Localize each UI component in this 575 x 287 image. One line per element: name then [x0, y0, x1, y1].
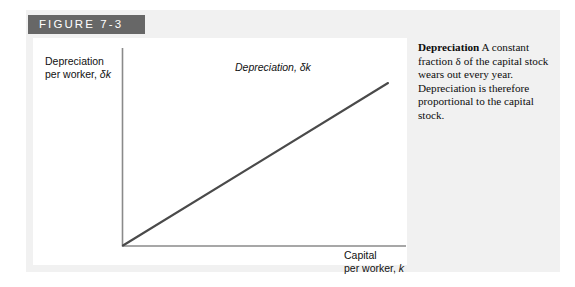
caption-term: Depreciation: [418, 41, 479, 53]
y-axis-label-line1: Depreciation: [45, 55, 104, 67]
x-axis-label-line1: Capital: [344, 249, 377, 261]
figure-panel: FIGURE 7-3 Depreciation per worker, δk D…: [26, 10, 560, 272]
y-axis-label: Depreciation per worker, δk: [45, 55, 111, 81]
figure-screenshot: FIGURE 7-3 Depreciation per worker, δk D…: [0, 0, 575, 287]
chart-plot-area: Depreciation per worker, δk Depreciation…: [33, 38, 407, 265]
figure-banner-label: FIGURE 7-3: [39, 18, 123, 30]
x-axis-label-variable: k: [399, 262, 404, 274]
y-axis-label-variable: δk: [100, 68, 111, 80]
depreciation-line: [123, 83, 388, 246]
x-axis-label: Capital per worker, k: [344, 249, 404, 275]
curve-label: Depreciation, δk: [235, 61, 311, 73]
figure-banner: FIGURE 7-3: [28, 15, 145, 34]
figure-caption: Depreciation A constant fraction δ of th…: [418, 41, 560, 123]
y-axis-label-line2-prefix: per worker,: [45, 68, 100, 80]
x-axis-label-line2-prefix: per worker,: [344, 262, 399, 274]
